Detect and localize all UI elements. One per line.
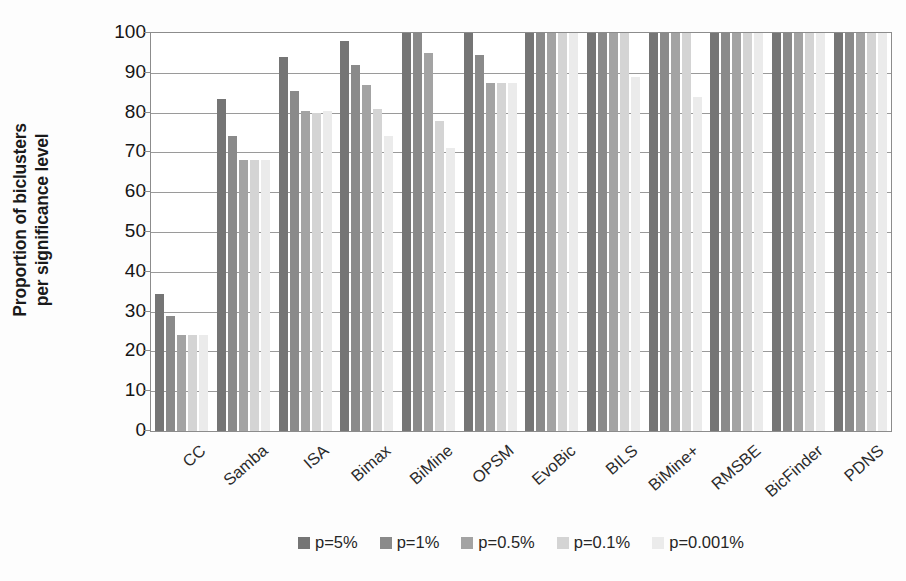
legend-swatch-icon bbox=[557, 537, 569, 549]
bar bbox=[279, 57, 288, 431]
x-axis-tick-label: Samba bbox=[219, 441, 271, 490]
bar bbox=[217, 99, 226, 431]
bar bbox=[340, 41, 349, 431]
plot-area bbox=[150, 32, 892, 432]
bars-layer bbox=[151, 33, 891, 431]
x-axis-tick-label: BiMine+ bbox=[645, 441, 703, 495]
legend-swatch-icon bbox=[298, 537, 310, 549]
bar bbox=[754, 33, 763, 431]
legend-label: p=1% bbox=[397, 533, 440, 552]
bar bbox=[384, 136, 393, 431]
chart-legend: p=5%p=1%p=0.5%p=0.1%p=0.001% bbox=[150, 533, 892, 552]
bar bbox=[250, 160, 259, 431]
bar bbox=[547, 33, 556, 431]
legend-swatch-icon bbox=[461, 537, 473, 549]
bar bbox=[609, 33, 618, 431]
bar bbox=[177, 335, 186, 431]
bar bbox=[772, 33, 781, 431]
bar bbox=[856, 33, 865, 431]
x-axis-tick-label: OPSM bbox=[468, 441, 517, 487]
x-axis-tick-label: PDNS bbox=[841, 441, 888, 485]
bar bbox=[598, 33, 607, 431]
bar bbox=[845, 33, 854, 431]
legend-item: p=5% bbox=[298, 533, 358, 552]
x-axis-tick-label: CC bbox=[179, 441, 209, 471]
bar bbox=[682, 33, 691, 431]
bar bbox=[373, 109, 382, 431]
bar bbox=[794, 33, 803, 431]
x-axis-tick-label: BiMine bbox=[405, 441, 456, 488]
bar bbox=[721, 33, 730, 431]
y-axis-tick-label: 10 bbox=[56, 379, 146, 401]
x-axis-tick-label: RMSBE bbox=[708, 441, 765, 494]
y-axis-tick-label: 70 bbox=[56, 140, 146, 162]
bar bbox=[497, 83, 506, 431]
bar bbox=[620, 33, 629, 431]
bar bbox=[508, 83, 517, 431]
bar-group bbox=[706, 33, 768, 431]
bar bbox=[631, 77, 640, 431]
bar bbox=[435, 121, 444, 431]
y-axis-tick-label: 30 bbox=[56, 300, 146, 322]
bar-group bbox=[398, 33, 460, 431]
legend-label: p=0.5% bbox=[478, 533, 534, 552]
bar bbox=[878, 33, 887, 431]
y-axis-tick-label: 60 bbox=[56, 180, 146, 202]
bar bbox=[166, 316, 175, 431]
bar bbox=[402, 33, 411, 431]
y-axis-tick-label: 0 bbox=[56, 419, 146, 441]
y-axis-tick-label: 90 bbox=[56, 61, 146, 83]
legend-label: p=5% bbox=[315, 533, 358, 552]
legend-item: p=1% bbox=[380, 533, 440, 552]
bar bbox=[413, 33, 422, 431]
chart-figure: Proportion of biclusters per significanc… bbox=[0, 0, 906, 581]
legend-swatch-icon bbox=[380, 537, 392, 549]
bar bbox=[816, 33, 825, 431]
bar bbox=[446, 148, 455, 431]
bar bbox=[649, 33, 658, 431]
y-axis-title: Proportion of biclusters per significanc… bbox=[2, 0, 62, 440]
bar-group bbox=[768, 33, 830, 431]
bar bbox=[710, 33, 719, 431]
bar bbox=[424, 53, 433, 431]
bar bbox=[660, 33, 669, 431]
bar bbox=[558, 33, 567, 431]
bar bbox=[732, 33, 741, 431]
bar bbox=[155, 294, 164, 431]
y-axis-tick-label: 80 bbox=[56, 101, 146, 123]
x-axis-tick-label: BicFinder bbox=[761, 441, 826, 501]
legend-item: p=0.1% bbox=[557, 533, 630, 552]
legend-item: p=0.001% bbox=[652, 533, 744, 552]
bar-group bbox=[644, 33, 706, 431]
bar bbox=[587, 33, 596, 431]
legend-swatch-icon bbox=[652, 537, 664, 549]
y-axis-tick-label: 20 bbox=[56, 339, 146, 361]
bar bbox=[188, 335, 197, 431]
bar bbox=[312, 113, 321, 431]
bar bbox=[783, 33, 792, 431]
x-axis-tick-label: ISA bbox=[300, 441, 333, 473]
x-axis-tick-label: Bimax bbox=[347, 441, 394, 485]
bar bbox=[486, 83, 495, 431]
bar bbox=[536, 33, 545, 431]
x-axis-tick-label: EvoBic bbox=[528, 441, 579, 489]
bar-group bbox=[829, 33, 891, 431]
bar bbox=[228, 136, 237, 431]
bar bbox=[301, 111, 310, 431]
bar bbox=[475, 55, 484, 431]
bar bbox=[261, 160, 270, 431]
bar bbox=[464, 33, 473, 431]
y-axis-title-line1: Proportion of biclusters bbox=[10, 123, 32, 317]
bar bbox=[805, 33, 814, 431]
y-axis-title-line2: per significance level bbox=[32, 123, 54, 317]
bar-group bbox=[151, 33, 213, 431]
bar bbox=[290, 91, 299, 431]
bar bbox=[323, 111, 332, 431]
bar-group bbox=[336, 33, 398, 431]
bar bbox=[867, 33, 876, 431]
bar bbox=[671, 33, 680, 431]
bar bbox=[743, 33, 752, 431]
y-axis-tick-label: 100 bbox=[56, 21, 146, 43]
bar bbox=[525, 33, 534, 431]
bar-group bbox=[521, 33, 583, 431]
